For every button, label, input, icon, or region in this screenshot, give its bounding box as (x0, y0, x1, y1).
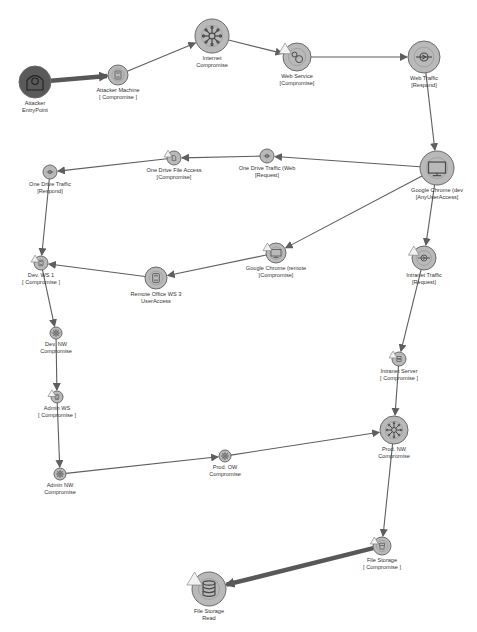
node-label-line-1: Intranet Server (380, 368, 418, 375)
edge-remote_ws3-to-dev_ws1[interactable] (49, 264, 145, 277)
node-onedrive_traffic[interactable] (43, 165, 57, 179)
node-label-line-1: File Storage (363, 557, 401, 564)
node-label-attacker_machine: Attacker Machine[ Compromise ] (96, 87, 139, 100)
attack-graph-canvas[interactable]: AttackerEntryPointAttacker Machine[ Comp… (0, 0, 477, 632)
node-file_storage_c[interactable] (370, 537, 391, 555)
edge-chrome_dev-to-onedrive_web[interactable] (275, 157, 420, 167)
node-label-line-2: [Compromise] (146, 174, 201, 181)
edge-attacker_machine-to-internet[interactable] (127, 43, 195, 71)
node-admin_nw[interactable] (54, 468, 66, 480)
node-label-line-1: Dev. WS 1 (22, 272, 60, 279)
node-label-line-2: [ Compromise ] (96, 94, 139, 101)
node-label-line-2: [ Compromise ] (363, 564, 401, 571)
node-onedrive_web[interactable] (260, 149, 274, 163)
node-label-internet: InternetCompromise (196, 55, 228, 68)
node-file_storage_r[interactable] (187, 572, 226, 606)
node-label-line-2: Compromise (209, 471, 241, 478)
node-label-line-2: [Compromise] (280, 80, 315, 87)
node-label-line-1: One Drive File Access (146, 167, 201, 174)
node-label-line-2: UserAccess (131, 298, 182, 305)
node-circle (219, 450, 231, 462)
edge-attacker_entry-to-attacker_machine[interactable] (51, 76, 107, 81)
node-label-web_service: Web Service[Compromise] (280, 73, 315, 86)
node-label-dev_nw: Dev. NWCompromise (40, 341, 72, 354)
nodes-layer (19, 19, 454, 606)
node-label-line-1: Admin NW (44, 482, 76, 489)
node-label-file_storage_c: File Storage[ Compromise ] (363, 557, 401, 570)
node-label-line-1: Prod. NW (378, 446, 410, 453)
node-dev_ws1[interactable] (31, 255, 48, 270)
node-label-chrome_dev: Google Chrome (dev[AnyUserAccess] (411, 187, 463, 200)
node-label-onedrive_file: One Drive File Access[Compromise] (146, 167, 201, 180)
node-label-web_traffic: Web Traffic[Respond] (410, 75, 438, 88)
edge-file_storage_c-to-file_storage_r[interactable] (226, 548, 373, 584)
node-label-line-2: [Request] (406, 279, 442, 286)
node-web_service[interactable] (279, 43, 311, 71)
node-label-line-1: Intranet Traffic (406, 272, 442, 279)
attack-graph-svg (0, 0, 477, 632)
edge-admin_nw-to-prod_ow[interactable] (66, 457, 218, 474)
node-attacker_machine[interactable] (108, 65, 128, 85)
node-chrome_remote[interactable] (263, 243, 286, 263)
node-label-line-1: Admin WS (38, 405, 76, 412)
node-circle (195, 19, 229, 53)
node-intranet_server[interactable] (389, 351, 406, 366)
node-dev_nw[interactable] (50, 327, 62, 339)
node-label-line-2: Compromise (196, 62, 228, 69)
node-label-line-1: Google Chrome (remote (246, 265, 306, 272)
node-label-intranet_server: Intranet Server[ Compromise ] (380, 368, 418, 381)
node-attacker_entry[interactable] (19, 66, 51, 98)
node-label-line-2: [ Compromise ] (22, 279, 60, 286)
node-label-line-1: Dev. NW (40, 341, 72, 348)
node-label-prod_ow: Prod. OWCompromise (209, 464, 241, 477)
node-circle (50, 327, 62, 339)
node-circle (19, 66, 51, 98)
node-label-admin_ws: Admin WS[ Compromise ] (38, 405, 76, 418)
node-label-attacker_entry: AttackerEntryPoint (22, 100, 48, 113)
node-label-remote_ws3: Remote Office WS 3UserAccess (131, 291, 182, 304)
node-admin_ws[interactable] (48, 390, 63, 403)
node-label-line-1: File Storage (194, 608, 224, 615)
node-label-line-2: [Respond] (410, 82, 438, 89)
edge-onedrive_web-to-onedrive_file[interactable] (182, 156, 260, 158)
node-label-dev_ws1: Dev. WS 1[ Compromise ] (22, 272, 60, 285)
node-label-line-2: [Compromise] (246, 272, 306, 279)
edge-prod_ow-to-prod_nw[interactable] (231, 432, 379, 455)
node-label-line-2: [Respond] (29, 188, 71, 195)
node-label-prod_nw: Prod. NWCompromise (378, 446, 410, 459)
node-chrome_dev[interactable] (420, 151, 454, 185)
node-label-line-1: Attacker (22, 100, 48, 107)
node-label-chrome_remote: Google Chrome (remote[Compromise] (246, 265, 306, 278)
node-circle (380, 416, 408, 444)
node-label-line-2: Compromise (44, 489, 76, 496)
node-label-line-1: Prod. OW (209, 464, 241, 471)
node-label-onedrive_web: One Drive Traffic (Web[Request] (239, 165, 296, 178)
node-circle (54, 468, 66, 480)
node-label-line-1: One Drive Traffic (Web (239, 165, 296, 172)
node-prod_ow[interactable] (219, 450, 231, 462)
node-label-line-1: Remote Office WS 3 (131, 291, 182, 298)
node-label-line-2: [Request] (239, 172, 296, 179)
node-label-file_storage_r: File StorageRead (194, 608, 224, 621)
node-web_traffic[interactable] (408, 41, 440, 73)
node-label-line-2: Read (194, 615, 224, 622)
node-onedrive_file[interactable] (164, 150, 181, 165)
node-label-line-1: Attacker Machine (96, 87, 139, 94)
node-circle (420, 151, 454, 185)
node-label-line-1: Web Traffic (410, 75, 438, 82)
node-circle (145, 267, 167, 289)
node-intranet_traffic[interactable] (408, 246, 436, 270)
node-circle (108, 65, 128, 85)
node-label-line-1: Web Service (280, 73, 315, 80)
edge-internet-to-web_service[interactable] (229, 40, 283, 53)
edge-chrome_dev-to-chrome_remote[interactable] (286, 176, 422, 248)
node-label-intranet_traffic: Intranet Traffic[Request] (406, 272, 442, 285)
node-label-line-1: One Drive Traffic (29, 181, 71, 188)
node-internet[interactable] (195, 19, 229, 53)
node-label-line-1: Google Chrome (dev (411, 187, 463, 194)
node-label-admin_nw: Admin NWCompromise (44, 482, 76, 495)
node-prod_nw[interactable] (380, 416, 408, 444)
node-remote_ws3[interactable] (145, 267, 167, 289)
node-label-line-2: [ Compromise ] (380, 375, 418, 382)
node-label-line-2: Compromise (40, 348, 72, 355)
